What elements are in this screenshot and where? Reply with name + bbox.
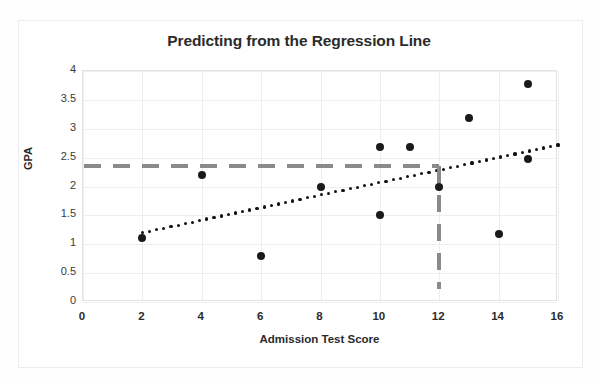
guide-dash-vertical: [437, 282, 441, 289]
regression-line-dot: [449, 166, 452, 169]
gridline-vertical: [83, 71, 84, 300]
regression-line-dot: [370, 183, 373, 186]
y-tick-label: 2: [32, 180, 76, 191]
gridline-vertical: [499, 71, 500, 300]
y-tick-label: 0.5: [32, 266, 76, 277]
x-tick-label: 6: [240, 311, 280, 323]
guide-dash-vertical: [437, 224, 441, 241]
regression-line-dot: [291, 199, 294, 202]
guide-dash-horizontal: [403, 164, 420, 168]
regression-line-dot: [148, 230, 151, 233]
guide-dash-vertical: [437, 195, 441, 212]
guide-dash-horizontal: [113, 164, 130, 168]
regression-line-dot: [521, 151, 524, 154]
regression-line-dot: [413, 174, 416, 177]
regression-line-dot: [506, 154, 509, 157]
regression-line-dot: [485, 158, 488, 161]
y-tick-label: 3.5: [32, 93, 76, 104]
guide-dash-horizontal: [84, 164, 101, 168]
gridline-vertical: [558, 71, 559, 300]
x-axis-title: Admission Test Score: [82, 333, 557, 345]
gridline-horizontal: [83, 302, 556, 303]
chart-title: Predicting from the Regression Line: [0, 32, 598, 50]
x-tick-label: 14: [478, 311, 518, 323]
data-point: [495, 230, 503, 238]
x-tick-label: 10: [359, 311, 399, 323]
regression-line-dot: [463, 163, 466, 166]
regression-line-dot: [356, 186, 359, 189]
guide-dash-horizontal: [229, 164, 246, 168]
regression-line-dot: [384, 180, 387, 183]
regression-line-dot: [420, 172, 423, 175]
regression-line-dot: [442, 168, 445, 171]
x-tick-label: 16: [537, 311, 577, 323]
gridline-vertical: [380, 71, 381, 300]
regression-line-dot: [470, 161, 473, 164]
plot-area: [82, 70, 557, 301]
regression-line-dot: [349, 187, 352, 190]
guide-dash-horizontal: [142, 164, 159, 168]
regression-line-dot: [205, 217, 208, 220]
regression-line-dot: [478, 160, 481, 163]
regression-line-dot: [549, 145, 552, 148]
regression-line-dot: [327, 192, 330, 195]
guide-dash-horizontal: [171, 164, 188, 168]
gridline-horizontal: [83, 215, 556, 216]
guide-dash-horizontal: [287, 164, 304, 168]
regression-line-dot: [528, 149, 531, 152]
gridline-horizontal: [83, 244, 556, 245]
regression-line-dot: [456, 165, 459, 168]
chart-container: Predicting from the Regression Line GPA …: [0, 0, 598, 381]
data-point: [524, 155, 532, 163]
data-point: [138, 234, 146, 242]
regression-line-dot: [427, 171, 430, 174]
regression-line-dot: [248, 208, 251, 211]
regression-line-dot: [263, 205, 266, 208]
data-point: [406, 143, 414, 151]
regression-line-dot: [255, 207, 258, 210]
data-point: [435, 183, 443, 191]
x-tick-label: 2: [121, 311, 161, 323]
regression-line-dot: [227, 213, 230, 216]
gridline-horizontal: [83, 129, 556, 130]
regression-line-dot: [406, 175, 409, 178]
y-tick-label: 1.5: [32, 208, 76, 219]
data-point: [257, 252, 265, 260]
y-tick-label: 0: [32, 295, 76, 306]
regression-line-dot: [184, 222, 187, 225]
regression-line-dot: [177, 224, 180, 227]
guide-dash-horizontal: [200, 164, 217, 168]
regression-line-dot: [306, 196, 309, 199]
regression-line-dot: [542, 146, 545, 149]
gridline-vertical: [142, 71, 143, 300]
regression-line-dot: [155, 228, 158, 231]
data-point: [465, 114, 473, 122]
y-tick-label: 3: [32, 122, 76, 133]
regression-line-dot: [556, 143, 559, 146]
guide-dash-horizontal: [374, 164, 391, 168]
data-point: [376, 143, 384, 151]
gridline-vertical: [261, 71, 262, 300]
gridline-horizontal: [83, 100, 556, 101]
data-point: [376, 211, 384, 219]
regression-line-dot: [241, 210, 244, 213]
y-tick-label: 4: [32, 64, 76, 75]
regression-line-dot: [270, 204, 273, 207]
regression-line-dot: [191, 221, 194, 224]
regression-line-dot: [392, 178, 395, 181]
guide-dash-vertical: [437, 166, 441, 183]
regression-line-dot: [334, 190, 337, 193]
regression-line-dot: [513, 152, 516, 155]
gridline-horizontal: [83, 71, 556, 72]
gridline-horizontal: [83, 273, 556, 274]
regression-line-dot: [320, 193, 323, 196]
regression-line-dot: [341, 189, 344, 192]
regression-line-dot: [535, 148, 538, 151]
y-tick-label: 2.5: [32, 151, 76, 162]
regression-line-dot: [169, 225, 172, 228]
guide-dash-horizontal: [345, 164, 362, 168]
regression-line-dot: [234, 211, 237, 214]
data-point: [524, 80, 532, 88]
guide-dash-horizontal: [316, 164, 333, 168]
regression-line-dot: [399, 177, 402, 180]
